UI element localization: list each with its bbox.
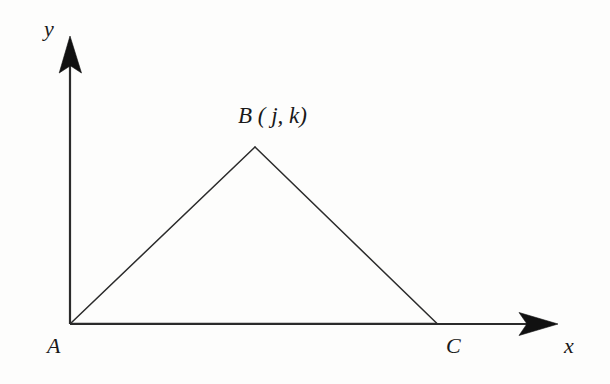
vertex-label-a: A bbox=[47, 335, 60, 357]
point-label-b: B ( j, k) bbox=[238, 104, 307, 127]
x-axis-label: x bbox=[564, 335, 574, 357]
geometry-figure: B ( j, k) A C y x bbox=[0, 0, 610, 384]
triangle-side-bc bbox=[255, 147, 437, 324]
figure-canvas bbox=[0, 0, 610, 384]
triangle-side-ab bbox=[71, 147, 256, 324]
vertex-label-c: C bbox=[446, 335, 461, 357]
y-axis-label: y bbox=[44, 18, 54, 40]
